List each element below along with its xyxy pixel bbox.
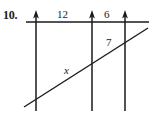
slant-transversal — [24, 28, 148, 107]
measure-label-6: 6 — [104, 9, 110, 20]
problem-number: 10. — [3, 9, 17, 21]
measure-label-12: 12 — [57, 9, 68, 20]
geometry-figure: 10. 12 6 7 x — [0, 0, 165, 116]
figure-canvas — [0, 0, 165, 116]
measure-label-7: 7 — [106, 37, 112, 48]
measure-label-x: x — [64, 65, 69, 76]
